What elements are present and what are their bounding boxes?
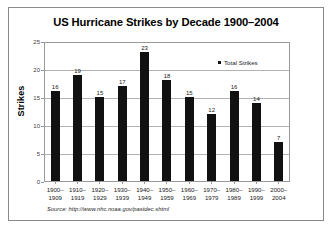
bar-value-label: 16 bbox=[52, 84, 59, 90]
x-axis-tickmarks bbox=[44, 181, 290, 185]
x-axis-label-line: 1980– bbox=[223, 186, 245, 194]
x-tickmark bbox=[234, 181, 235, 184]
bar: 16 bbox=[51, 91, 60, 181]
x-tickmark bbox=[278, 181, 279, 184]
x-axis-label-line: 1969 bbox=[178, 194, 200, 202]
bar-slot: 7 bbox=[268, 42, 290, 181]
x-tickmark bbox=[55, 181, 56, 184]
bar: 19 bbox=[73, 75, 82, 181]
x-tick-slot bbox=[156, 181, 178, 185]
bar: 15 bbox=[185, 97, 194, 181]
x-axis-label: 2000–2004 bbox=[268, 186, 290, 201]
bar-slot: 15 bbox=[178, 42, 200, 181]
source-note: Source: http://www.nhc.noaa.gov/pastdec.… bbox=[47, 206, 169, 212]
legend: Total Strikes bbox=[218, 59, 258, 66]
y-axis-title: Strikes bbox=[16, 71, 26, 131]
chart-title: US Hurricane Strikes by Decade 1900–2004 bbox=[8, 16, 324, 28]
bar-value-label: 16 bbox=[231, 84, 238, 90]
x-tickmark bbox=[166, 181, 167, 184]
x-tick-slot bbox=[268, 181, 290, 185]
x-axis-label: 1990–1999 bbox=[245, 186, 267, 201]
bar: 7 bbox=[274, 142, 283, 181]
x-axis-label-line: 1990– bbox=[245, 186, 267, 194]
x-axis-label-line: 1959 bbox=[156, 194, 178, 202]
x-axis-label-line: 2004 bbox=[268, 194, 290, 202]
x-axis-label: 1960–1969 bbox=[178, 186, 200, 201]
x-axis-label-line: 1920– bbox=[89, 186, 111, 194]
x-tickmark bbox=[256, 181, 257, 184]
x-axis-label: 1920–1929 bbox=[89, 186, 111, 201]
bar-slot: 19 bbox=[66, 42, 88, 181]
x-axis-label: 1980–1989 bbox=[223, 186, 245, 201]
bar-value-label: 17 bbox=[119, 79, 126, 85]
x-axis-label-line: 1999 bbox=[245, 194, 267, 202]
bar-value-label: 23 bbox=[141, 45, 148, 51]
x-axis-label: 1900–1909 bbox=[44, 186, 66, 201]
bar-value-label: 15 bbox=[186, 90, 193, 96]
bar: 17 bbox=[118, 86, 127, 181]
bar-slot: 18 bbox=[156, 42, 178, 181]
x-axis-label-line: 1939 bbox=[111, 194, 133, 202]
x-tick-slot bbox=[178, 181, 200, 185]
x-tick-slot bbox=[245, 181, 267, 185]
x-tickmark bbox=[211, 181, 212, 184]
x-axis-label-line: 1910– bbox=[66, 186, 88, 194]
bar-value-label: 19 bbox=[74, 68, 81, 74]
x-tickmark bbox=[122, 181, 123, 184]
x-axis-label-line: 1979 bbox=[201, 194, 223, 202]
x-axis-label-line: 1970– bbox=[201, 186, 223, 194]
bar: 15 bbox=[95, 97, 104, 181]
x-axis-labels: 1900–19091910–19191920–19291930–19391940… bbox=[44, 186, 290, 201]
x-axis-label-line: 1919 bbox=[66, 194, 88, 202]
legend-swatch-icon bbox=[218, 61, 221, 64]
bar-value-label: 15 bbox=[97, 90, 104, 96]
x-axis-label-line: 1909 bbox=[44, 194, 66, 202]
x-axis-label-line: 1960– bbox=[178, 186, 200, 194]
x-tick-slot bbox=[44, 181, 66, 185]
x-axis-label-line: 1940– bbox=[133, 186, 155, 194]
bar-slot: 16 bbox=[44, 42, 66, 181]
bar: 23 bbox=[140, 52, 149, 181]
x-axis-label-line: 1900– bbox=[44, 186, 66, 194]
x-tickmark bbox=[77, 181, 78, 184]
chart-figure: US Hurricane Strikes by Decade 1900–2004… bbox=[0, 0, 332, 235]
bar-value-label: 14 bbox=[253, 96, 260, 102]
bar-value-label: 12 bbox=[208, 107, 215, 113]
bar-value-label: 7 bbox=[277, 135, 280, 141]
bar-value-label: 18 bbox=[164, 73, 171, 79]
x-axis-label-line: 1989 bbox=[223, 194, 245, 202]
x-tick-slot bbox=[201, 181, 223, 185]
x-axis-label-line: 1929 bbox=[89, 194, 111, 202]
x-tickmark bbox=[144, 181, 145, 184]
x-tick-slot bbox=[223, 181, 245, 185]
bar-slot: 17 bbox=[111, 42, 133, 181]
x-tick-slot bbox=[66, 181, 88, 185]
x-tick-slot bbox=[111, 181, 133, 185]
x-axis-label: 1930–1939 bbox=[111, 186, 133, 201]
bar: 12 bbox=[207, 114, 216, 181]
bar: 16 bbox=[230, 91, 239, 181]
bar-slot: 23 bbox=[133, 42, 155, 181]
x-tick-slot bbox=[89, 181, 111, 185]
x-tickmark bbox=[99, 181, 100, 184]
bar-slot: 15 bbox=[89, 42, 111, 181]
x-axis-label: 1970–1979 bbox=[201, 186, 223, 201]
x-axis-label: 1940–1949 bbox=[133, 186, 155, 201]
bar: 18 bbox=[162, 80, 171, 181]
x-tick-slot bbox=[133, 181, 155, 185]
bar: 14 bbox=[252, 103, 261, 181]
x-axis-label: 1950–1959 bbox=[156, 186, 178, 201]
x-axis-label-line: 1950– bbox=[156, 186, 178, 194]
x-axis-label: 1910–1919 bbox=[66, 186, 88, 201]
legend-label: Total Strikes bbox=[224, 59, 258, 66]
x-axis-label-line: 1949 bbox=[133, 194, 155, 202]
x-tickmark bbox=[189, 181, 190, 184]
x-axis-label-line: 1930– bbox=[111, 186, 133, 194]
x-axis-label-line: 2000– bbox=[268, 186, 290, 194]
